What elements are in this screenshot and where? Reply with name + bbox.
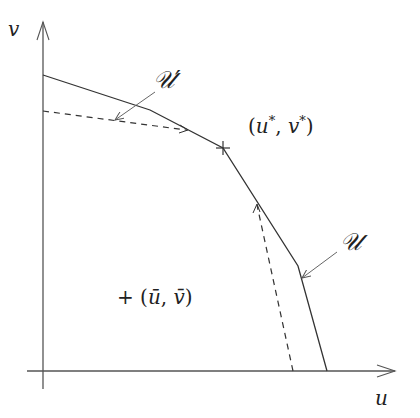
frontier-u-prime-dashed: [43, 111, 293, 371]
y-axis-label: v: [8, 17, 20, 41]
frontier-u-label: 𝒰: [340, 228, 368, 256]
x-axis: [27, 365, 395, 377]
u-prime-pointer-arrow: [115, 92, 155, 120]
optimal-point-marker: [216, 141, 230, 155]
baseline-point-label: + (ū, v̄): [117, 285, 193, 309]
optimal-point-label: (u*, v*): [248, 113, 314, 138]
frontier-u-prime-label: 𝒰′: [153, 66, 181, 94]
diagram-canvas: v u (u*, v*) + (ū, v̄) 𝒰′ 𝒰: [0, 0, 420, 418]
u-pointer-arrow: [302, 252, 337, 278]
x-axis-label: u: [375, 386, 388, 410]
